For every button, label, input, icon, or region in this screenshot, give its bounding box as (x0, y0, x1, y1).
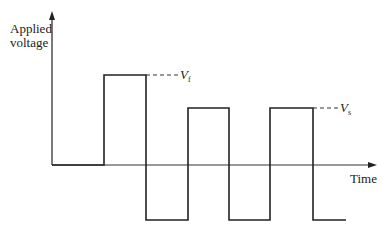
square-wave (52, 75, 346, 220)
y-axis-label-line2: voltage (10, 36, 52, 50)
vs-label: Vs (340, 101, 351, 120)
vf-symbol: V (180, 67, 188, 82)
y-axis-label-line1: Applied (10, 22, 52, 36)
y-axis-arrow-icon (49, 11, 55, 20)
vf-subscript: f (188, 75, 191, 84)
y-axis-label: Applied voltage (10, 22, 52, 50)
vs-subscript: s (348, 108, 351, 117)
vs-symbol: V (340, 100, 348, 115)
vf-label: Vf (180, 68, 191, 87)
waveform-diagram (0, 0, 383, 230)
x-axis-arrow-icon (368, 162, 377, 168)
x-axis-label: Time (350, 172, 377, 186)
